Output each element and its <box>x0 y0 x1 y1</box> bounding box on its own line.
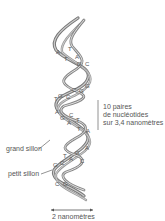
nucleotide-base: T <box>77 126 81 132</box>
nucleotide-base: G <box>60 115 65 121</box>
nucleotide-base: C <box>72 87 77 93</box>
major-groove-label: grand sillon <box>6 145 42 153</box>
nucleotide-base: G <box>58 93 63 99</box>
minor-groove-leader <box>41 170 52 174</box>
nucleotide-base: T <box>64 56 68 62</box>
nucleotide-base: G <box>85 83 90 89</box>
nucleotide-base: G <box>53 162 58 168</box>
nucleotide-base: G <box>63 181 68 187</box>
nucleotide-base: C <box>80 158 85 164</box>
pairs-label-line1: 10 paires <box>103 103 163 111</box>
nucleotide-base: A <box>55 109 59 115</box>
nucleotide-base: A <box>67 120 71 126</box>
arrow-left-head <box>51 209 54 212</box>
nucleotide-base: G <box>79 88 84 94</box>
nucleotide-base: T <box>68 46 72 52</box>
width-label: 2 nanomètres <box>52 213 95 221</box>
nucleotide-base: C <box>60 160 65 166</box>
pairs-label: 10 paires de nucléotides sur 3,4 nanomèt… <box>103 103 163 127</box>
nucleotide-base: T <box>63 153 67 159</box>
nucleotide-base: C <box>69 112 74 118</box>
nucleotide-base: A <box>69 156 73 162</box>
pairs-label-line2: de nucléotides <box>103 111 163 119</box>
nucleotide-base: C <box>66 94 71 100</box>
nucleotide-base: C <box>85 61 90 67</box>
nucleotide-base: T <box>54 96 58 102</box>
nucleotide-base: G <box>77 61 82 67</box>
pairs-label-line3: sur 3,4 nanomètres <box>103 119 163 127</box>
nucleotide-base: A <box>85 145 89 151</box>
nucleotide-base: C <box>55 181 60 187</box>
nucleotide-base: G <box>75 150 80 156</box>
nucleotide-base: A <box>86 128 90 134</box>
arrow-right-head <box>90 209 93 212</box>
nucleotide-base: T <box>76 117 80 123</box>
minor-groove-label: petit sillon <box>8 170 39 178</box>
nucleotide-base: A <box>56 49 60 55</box>
nucleotide-base: A <box>75 54 79 60</box>
